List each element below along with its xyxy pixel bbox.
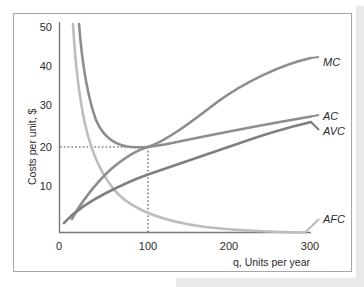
ac-connector <box>311 115 319 117</box>
x-tick-300: 300 <box>301 240 319 252</box>
y-axis-title: Costs per unit, $ <box>26 108 38 185</box>
ac-curve <box>79 24 311 147</box>
y-tick-10: 10 <box>40 180 52 192</box>
y-tick-30: 30 <box>40 99 52 111</box>
chart-figure: 50 40 30 20 10 Costs per unit, $ 0 100 2… <box>0 0 364 287</box>
y-tick-20: 20 <box>40 141 52 153</box>
x-tick-200: 200 <box>220 240 238 252</box>
label-connectors <box>305 57 319 233</box>
curve-label-mc: MC <box>323 56 340 68</box>
y-tick-50: 50 <box>40 21 52 33</box>
avc-curve <box>64 122 311 223</box>
x-tick-0: 0 <box>56 240 62 252</box>
curve-label-ac: AC <box>322 110 338 122</box>
x-axis-tick-labels: 0 100 200 300 <box>56 240 319 252</box>
curve-label-avc: AVC <box>322 125 345 137</box>
avc-connector <box>311 122 319 130</box>
curve-labels: MC AC AVC AFC <box>322 56 345 225</box>
curve-label-afc: AFC <box>322 213 345 225</box>
y-tick-40: 40 <box>40 60 52 72</box>
afc-curve <box>73 24 305 233</box>
x-axis-title: q, Units per year <box>233 256 311 268</box>
cost-curves-plot: 50 40 30 20 10 Costs per unit, $ 0 100 2… <box>0 0 364 287</box>
afc-connector <box>305 219 319 233</box>
y-axis-tick-labels: 50 40 30 20 10 <box>40 21 52 192</box>
mc-connector <box>311 57 319 58</box>
x-tick-100: 100 <box>139 240 157 252</box>
